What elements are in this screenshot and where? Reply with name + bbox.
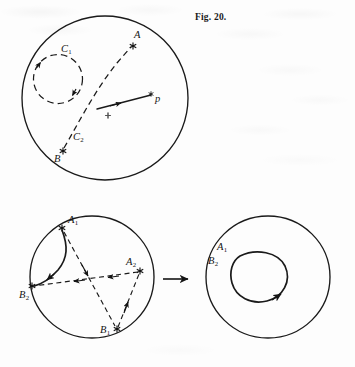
- dashed-b1a2-arrowhead: [124, 302, 128, 313]
- marker-point-b: [60, 148, 66, 154]
- dashed-path-b1-to-a2: [118, 274, 139, 327]
- marker-point-a: [130, 43, 136, 49]
- top-boundary-circle: [22, 16, 188, 180]
- label-point-b: B: [54, 154, 60, 165]
- top-figure-group: [22, 16, 188, 180]
- bottom-right-boundary-circle: [206, 216, 330, 338]
- solid-path-arrowhead: [47, 274, 54, 280]
- dashed-a1b1-arrowhead: [82, 265, 88, 276]
- marker-point-a1: [59, 225, 65, 231]
- label-point-a1: A1: [68, 215, 78, 226]
- bottom-left-figure-group: [29, 216, 154, 338]
- label-curve-c1: C1: [61, 44, 71, 55]
- label-point-b1: B1: [100, 325, 110, 336]
- c1-arrowhead-lower: [73, 89, 77, 96]
- figure-drawing-canvas: [0, 0, 355, 367]
- vector-p-line: [97, 95, 151, 109]
- marker-point-b1: [114, 326, 120, 332]
- label-right-point-b2: B2: [208, 256, 218, 267]
- dashed-curve-c1: [34, 55, 83, 104]
- bottom-left-boundary-circle: [30, 216, 154, 338]
- vector-p-arrowhead: [110, 103, 121, 106]
- smudge-mark-below-vector: [106, 113, 111, 118]
- dashed-path-a1-to-b1: [64, 232, 115, 326]
- label-vector-p: p: [155, 94, 160, 105]
- label-right-point-a1: A1: [217, 242, 227, 253]
- figure-page: Fig. 20.: [0, 0, 355, 367]
- bottom-right-figure-group: [206, 216, 330, 338]
- label-curve-c2: C2: [73, 132, 83, 143]
- marker-point-a2: [137, 268, 143, 274]
- closed-loop-arrowhead: [272, 294, 281, 300]
- label-point-b2: B2: [19, 290, 29, 301]
- label-point-a: A: [134, 30, 140, 41]
- label-point-a2: A2: [126, 257, 136, 268]
